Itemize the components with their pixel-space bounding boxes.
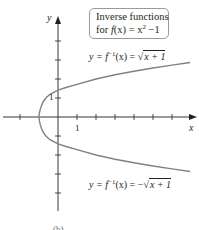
- title-suffix: −1: [146, 24, 160, 35]
- x-axis-label: x: [189, 122, 193, 133]
- lower-inverse-curve: [39, 117, 190, 172]
- title-line-1: Inverse functions: [96, 11, 168, 24]
- title-prefix: for: [96, 24, 111, 35]
- title-box: Inverse functions for f(x) = x2 −1: [89, 8, 169, 39]
- y-tick-label-1: 1: [49, 92, 54, 103]
- lower-radicand: x + 1: [149, 178, 171, 190]
- title-mid: (x) = x: [114, 24, 143, 35]
- lower-lhs: y = f: [89, 179, 108, 190]
- lower-curve-label: y = f−1(x) = −√x + 1: [89, 179, 171, 190]
- x-tick-label-1: 1: [75, 123, 80, 134]
- title-line-2: for f(x) = x2 −1: [96, 24, 168, 37]
- x-axis-arrow-icon: [189, 114, 197, 120]
- upper-radicand: x + 1: [143, 50, 165, 62]
- figure-label: (b): [53, 224, 64, 230]
- upper-mid: (x) =: [115, 51, 137, 62]
- upper-lhs: y = f: [89, 51, 108, 62]
- lower-mid: (x) = −: [115, 179, 143, 190]
- upper-inverse-curve: [39, 63, 190, 118]
- upper-curve-label: y = f−1(x) = √x + 1: [89, 51, 165, 62]
- y-axis-arrow-icon: [55, 16, 61, 24]
- y-axis-label: y: [47, 12, 51, 23]
